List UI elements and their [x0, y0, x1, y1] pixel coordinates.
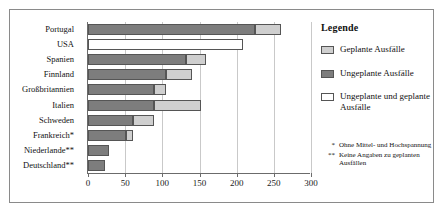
bar-segment-unplanned [88, 84, 154, 95]
bar-segment-unplanned [88, 115, 133, 126]
bar-segment-planned [154, 100, 201, 111]
category-label: USA [57, 40, 74, 49]
legend-label: Ungeplante Ausfälle [340, 68, 414, 79]
category-label: Finnland [44, 70, 74, 79]
footnote: *Ohne Mittel- und Hochspannung [321, 141, 444, 150]
x-tick-label: 200 [222, 178, 252, 188]
category-label: Niederlande** [24, 146, 74, 155]
bar-row [88, 160, 311, 171]
bar-row [88, 100, 311, 111]
x-tick [237, 173, 238, 177]
bar-segment-unplanned [88, 145, 109, 156]
bar-segment-planned [154, 84, 166, 95]
legend-item: Geplante Ausfälle [321, 44, 441, 55]
category-label: Schweden [39, 116, 74, 125]
category-label: Deutschland** [23, 161, 74, 170]
category-label: Spanien [47, 55, 74, 64]
x-tick [88, 173, 89, 177]
bar-segment-unplanned [88, 54, 186, 65]
footnote-text: Keine Angaben zu geplanten Ausfällen [339, 151, 444, 168]
legend-label: Ungeplante und geplante Ausfälle [340, 91, 441, 112]
x-tick-label: 300 [296, 178, 326, 188]
bar-row [88, 54, 311, 65]
bar-segment-planned [133, 115, 155, 126]
bar-segment-unplanned [88, 130, 126, 141]
footnote-mark: ** [321, 151, 339, 168]
category-label: Frankreich* [33, 131, 74, 140]
bar-segment-planned [255, 24, 282, 35]
x-tick-label: 100 [147, 178, 177, 188]
x-tick [200, 173, 201, 177]
x-tick-label: 50 [110, 178, 140, 188]
footnote: **Keine Angaben zu geplanten Ausfällen [321, 151, 444, 168]
axis-area: 050100150200250300 [87, 22, 310, 174]
legend-item: Ungeplante Ausfälle [321, 68, 441, 79]
legend-title: Legende [321, 22, 441, 33]
bar-segment-unplanned [88, 24, 255, 35]
x-tick [125, 173, 126, 177]
category-axis-labels: PortugalUSASpanienFinnlandGroßbritannien… [10, 22, 78, 174]
x-tick-label: 250 [259, 178, 289, 188]
bar-row [88, 69, 311, 80]
bar-row [88, 130, 311, 141]
legend-swatch-both [321, 93, 334, 101]
bar-row [88, 24, 311, 35]
footnote-text: Ohne Mittel- und Hochspannung [339, 141, 431, 150]
bar-row [88, 115, 311, 126]
legend-items: Geplante AusfälleUngeplante AusfälleUnge… [321, 44, 441, 112]
gridline [311, 22, 312, 173]
plot-area: 050100150200250300 [78, 22, 310, 180]
bar-segment-both [88, 39, 243, 50]
bar-row [88, 145, 311, 156]
bar-segment-unplanned [88, 100, 154, 111]
bar-row [88, 84, 311, 95]
footnotes: *Ohne Mittel- und Hochspannung**Keine An… [321, 141, 444, 169]
chart-frame: PortugalUSASpanienFinnlandGroßbritannien… [9, 9, 434, 203]
bar-segment-planned [126, 130, 133, 141]
category-label: Großbritannien [22, 85, 74, 94]
bar-segment-planned [166, 69, 192, 80]
legend-label: Geplante Ausfälle [340, 44, 405, 55]
footnote-mark: * [321, 141, 339, 150]
x-tick [274, 173, 275, 177]
bar-row [88, 39, 311, 50]
category-label: Italien [52, 101, 74, 110]
x-tick-label: 150 [185, 178, 215, 188]
bar-segment-unplanned [88, 69, 166, 80]
legend-swatch-unplanned [321, 70, 334, 78]
legend-swatch-planned [321, 46, 334, 54]
x-tick [162, 173, 163, 177]
legend-item: Ungeplante und geplante Ausfälle [321, 91, 441, 112]
x-tick-label: 0 [73, 178, 103, 188]
category-label: Portugal [45, 25, 74, 34]
x-tick [311, 173, 312, 177]
legend: Legende Geplante AusfälleUngeplante Ausf… [321, 22, 441, 125]
bar-segment-unplanned [88, 160, 105, 171]
bar-segment-planned [186, 54, 206, 65]
